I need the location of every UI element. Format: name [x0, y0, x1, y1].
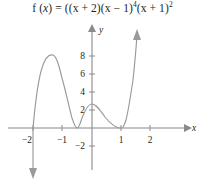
x-tick-label--2: −2	[22, 135, 32, 145]
y-tick-label--2: −2	[75, 141, 85, 151]
graph-plot: −2 −1 1 2 8 6 4 2 −2 x y	[0, 0, 205, 187]
y-tick-label-6: 6	[80, 69, 85, 79]
curve-right-arrow-icon	[133, 29, 141, 40]
curve-path	[33, 36, 137, 128]
x-tick-label--1: −1	[57, 135, 67, 145]
y-axis-label: y	[98, 25, 104, 35]
x-tick-label-2: 2	[148, 135, 153, 145]
curve-left-arrow-icon	[29, 168, 37, 179]
x-tick-label-1: 1	[119, 135, 124, 145]
y-tick-label-2: 2	[80, 105, 85, 115]
y-axis-arrow-icon	[88, 24, 96, 32]
y-tick-label-4: 4	[80, 87, 85, 97]
x-axis-arrow-icon	[184, 124, 192, 132]
figure-container: f (x) = ((x + 2)(x − 1)4(x + 1)2 −2 −1 1…	[0, 0, 205, 187]
y-tick-label-8: 8	[80, 51, 85, 61]
x-axis-label: x	[191, 123, 197, 133]
